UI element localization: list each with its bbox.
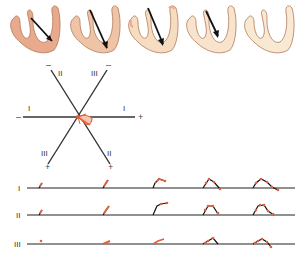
lead-II-plus: +: [108, 162, 113, 172]
trace-row-I: I: [18, 178, 295, 193]
lead-I-label-right: I: [123, 104, 125, 113]
lead-I-plus: +: [138, 112, 143, 122]
lead-II-minus: –: [46, 60, 51, 70]
trace-label-I: I: [18, 184, 20, 193]
lead-III-label-bottom: III: [41, 149, 48, 158]
lead-axis-diagram: – + I I – II II + – III III +: [16, 60, 143, 172]
diagram-canvas: – + I I – II II + – III III + I: [0, 0, 308, 263]
lead-III-minus: –: [106, 60, 111, 70]
heart-3: [129, 6, 178, 53]
heart-4: [187, 6, 236, 53]
heart-5: [245, 6, 294, 53]
trace-label-II: II: [16, 211, 20, 220]
lead-I-minus: –: [16, 112, 21, 122]
lead-I-label-left: I: [28, 104, 30, 113]
heart-1: [11, 6, 60, 53]
trace-row-III: III: [14, 237, 295, 249]
trace-label-III: III: [14, 240, 21, 249]
lead-II-label-bottom: II: [107, 149, 111, 158]
lead-III-label-top: III: [91, 69, 98, 78]
trace-row-II: II: [16, 202, 295, 220]
heart-2: [71, 6, 120, 53]
lead-II-label-top: II: [58, 69, 62, 78]
lead-III-plus: +: [45, 162, 50, 172]
